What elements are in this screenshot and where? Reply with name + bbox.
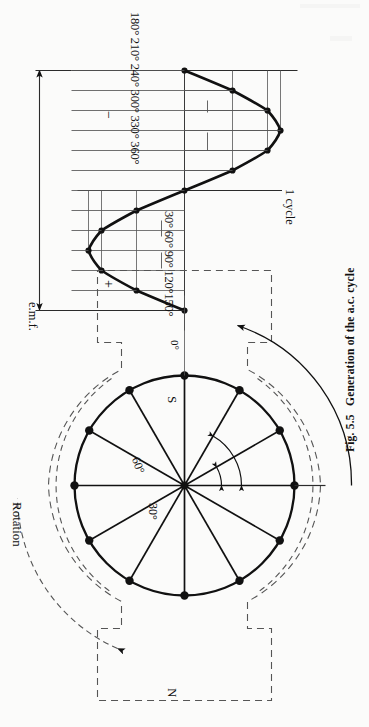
rotation-arrow-lower <box>17 498 117 648</box>
pole-label-south: S <box>164 394 180 405</box>
figure-canvas <box>0 0 369 727</box>
figure-caption-text: Generation of the a.c. cycle <box>344 268 356 406</box>
figure-caption-number: Fig. 5.5 <box>344 414 356 452</box>
angle-arc-30 <box>216 467 221 486</box>
rotor-angle-label-30: 30° <box>145 503 160 520</box>
polarity-plus-label: + <box>100 280 116 288</box>
polarity-minus-label: − <box>100 111 116 119</box>
figure-page: 180° 210° 240° 300° 330° 360° 30° 60° 90… <box>0 0 369 727</box>
ac-cycle-diagram <box>0 0 369 727</box>
angle-labels-second-half: 180° 210° 240° 300° 330° 360° <box>127 12 142 164</box>
angle-labels-first-half: 30° 60° 90° 120°150° <box>161 211 176 316</box>
rotation-label: Rotation <box>9 502 25 547</box>
pole-label-north: N <box>164 686 180 699</box>
one-cycle-label: 1 cycle <box>282 186 297 228</box>
rotation-arrow-upper <box>237 325 351 485</box>
emf-axis-label: e.m.f. <box>25 302 40 331</box>
angle-label-zero: 0° <box>169 340 181 350</box>
